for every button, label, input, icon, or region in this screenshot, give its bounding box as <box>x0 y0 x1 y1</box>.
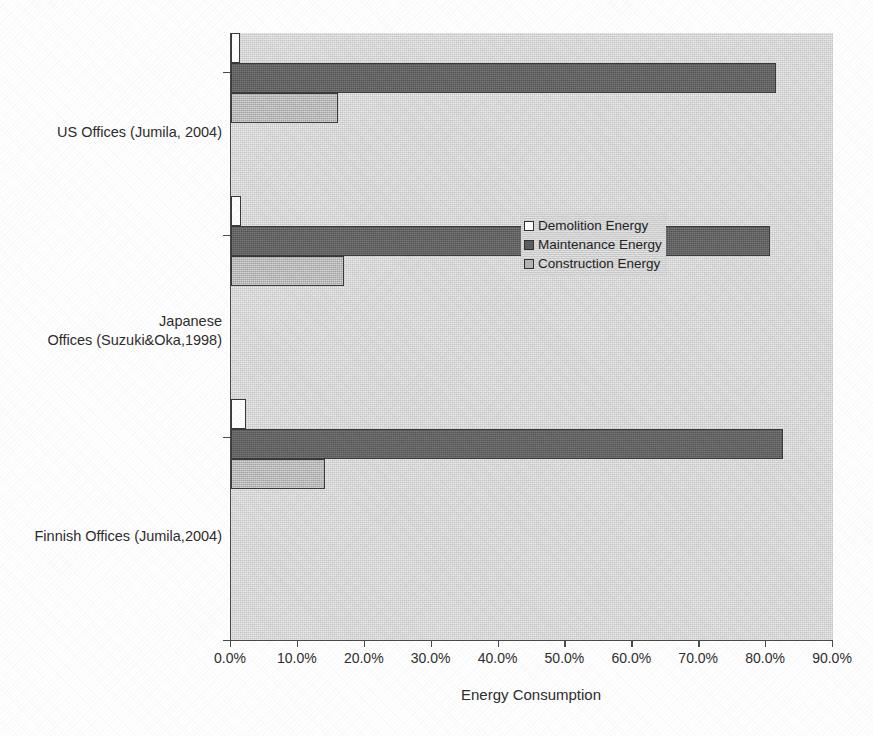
x-axis-tick-label: 60.0% <box>596 650 666 666</box>
x-axis-title: Energy Consumption <box>230 686 832 703</box>
category-tick <box>223 437 230 438</box>
x-axis-tick <box>364 640 365 647</box>
x-axis-tick <box>765 640 766 647</box>
bar-chart: US Offices (Jumila, 2004) Japanese Offic… <box>0 0 873 736</box>
bar-demolition <box>231 399 246 429</box>
x-axis-tick-label: 20.0% <box>329 650 399 666</box>
bar-demolition <box>231 33 240 63</box>
x-axis-tick <box>564 640 565 647</box>
x-axis-tick-label: 70.0% <box>663 650 733 666</box>
bar-maintenance <box>231 226 770 256</box>
x-axis-tick-label: 80.0% <box>730 650 800 666</box>
category-tick <box>223 235 230 236</box>
category-label-finnish: Finnish Offices (Jumila,2004) <box>0 527 222 546</box>
bar-maintenance <box>231 63 776 93</box>
bar-construction <box>231 93 338 123</box>
category-label-line: Offices (Suzuki&Oka,1998) <box>0 331 222 350</box>
x-axis-tick <box>498 640 499 647</box>
legend-label: Construction Energy <box>538 254 660 273</box>
category-tick <box>223 72 230 73</box>
x-axis-tick <box>698 640 699 647</box>
x-axis-tick-label: 50.0% <box>529 650 599 666</box>
legend-swatch-icon <box>524 221 534 231</box>
x-axis-tick <box>297 640 298 647</box>
category-tick <box>223 640 230 641</box>
legend-label: Maintenance Energy <box>538 235 662 254</box>
x-axis-tick <box>431 640 432 647</box>
category-label-line: Finnish Offices (Jumila,2004) <box>0 527 222 546</box>
category-label-us: US Offices (Jumila, 2004) <box>0 123 222 142</box>
category-label-japanese: Japanese Offices (Suzuki&Oka,1998) <box>0 312 222 350</box>
x-axis-tick <box>631 640 632 647</box>
legend-item-maintenance: Maintenance Energy <box>524 235 662 254</box>
legend: Demolition Energy Maintenance Energy Con… <box>521 213 666 276</box>
x-axis-tick-label: 30.0% <box>396 650 466 666</box>
category-label-line: US Offices (Jumila, 2004) <box>0 123 222 142</box>
x-axis-tick-label: 90.0% <box>797 650 867 666</box>
legend-swatch-icon <box>524 240 534 250</box>
bar-maintenance <box>231 429 783 459</box>
bar-construction <box>231 256 344 286</box>
x-axis-tick-label: 40.0% <box>463 650 533 666</box>
bar-demolition <box>231 196 241 226</box>
x-axis-tick-label: 10.0% <box>262 650 332 666</box>
legend-swatch-icon <box>524 259 534 269</box>
x-axis-tick <box>832 640 833 647</box>
x-axis-tick-label: 0.0% <box>195 650 265 666</box>
legend-label: Demolition Energy <box>538 216 648 235</box>
legend-item-demolition: Demolition Energy <box>524 216 662 235</box>
bar-construction <box>231 459 325 489</box>
category-label-line: Japanese <box>0 312 222 331</box>
plot-area <box>230 33 833 641</box>
legend-item-construction: Construction Energy <box>524 254 662 273</box>
x-axis-tick <box>230 640 231 647</box>
